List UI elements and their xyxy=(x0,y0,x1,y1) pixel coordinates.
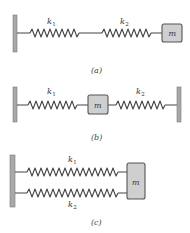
panel-c: m k1 k2 (c) xyxy=(10,155,145,227)
spring-label-k2: k2 xyxy=(68,200,77,210)
panel-b: m k1 k2 (b) xyxy=(13,87,181,142)
mass-label: m xyxy=(169,29,177,38)
spring-label-k2: k2 xyxy=(120,17,129,27)
caption-b: (b) xyxy=(91,133,102,142)
mass-label: m xyxy=(94,101,102,110)
spring-k2 xyxy=(27,189,118,197)
spring-k1 xyxy=(27,168,118,176)
spring-k1 xyxy=(28,101,77,109)
mass-label: m xyxy=(132,178,140,187)
wall-left xyxy=(10,155,15,207)
spring-label-k1: k1 xyxy=(68,155,77,165)
spring-k1 xyxy=(30,29,79,37)
wall-right xyxy=(177,87,181,122)
wall-left xyxy=(13,15,17,52)
spring-label-k1: k1 xyxy=(47,87,56,97)
caption-c: (c) xyxy=(91,218,102,227)
caption-a: (a) xyxy=(91,66,102,75)
spring-label-k1: k1 xyxy=(47,17,56,27)
spring-k2 xyxy=(102,29,151,37)
spring-mass-diagram: m k1 k2 (a) m k1 k2 (b) m k1 k2 (c) xyxy=(0,0,190,233)
spring-label-k2: k2 xyxy=(136,87,145,97)
wall-left xyxy=(13,87,17,122)
spring-k2 xyxy=(116,101,165,109)
panel-a: m k1 k2 (a) xyxy=(13,15,182,75)
